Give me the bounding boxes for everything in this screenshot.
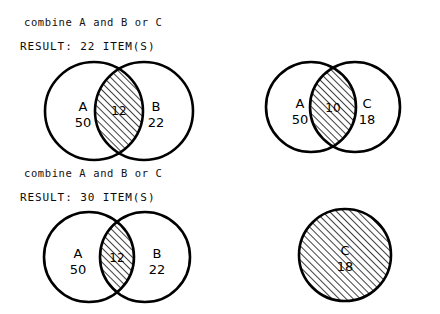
result-text-2: RESULT: 30 ITEM(S) (20, 191, 155, 204)
set-c-count-2: 18 (337, 259, 354, 274)
set-b-count: 22 (148, 115, 165, 130)
venn-diagram-a-and-b-top: A 50 B 22 12 (40, 57, 202, 167)
intersection-count-a-c: 10 (325, 101, 340, 115)
set-b-letter: B (152, 99, 161, 114)
query-text-2: combine A and B or C (24, 167, 162, 179)
intersection-count-a-b: 12 (111, 104, 126, 118)
set-a-letter-3: A (74, 246, 83, 261)
set-c-count: 18 (359, 112, 376, 127)
set-c-letter: C (362, 96, 371, 111)
set-a-letter-2: A (296, 96, 305, 111)
set-a-count-2: 50 (292, 112, 309, 127)
query-text-1: combine A and B or C (24, 16, 162, 28)
intersection-count-a-b-2: 12 (109, 251, 124, 265)
set-a-count: 50 (75, 115, 92, 130)
set-a-letter: A (79, 99, 88, 114)
set-b-count-2: 22 (149, 262, 166, 277)
set-b-letter-2: B (153, 246, 162, 261)
set-a-count-3: 50 (70, 262, 87, 277)
venn-diagram-a-and-b-bottom: A 50 B 22 12 (40, 208, 200, 308)
venn-diagram-page: combine A and B or C RESULT: 22 ITEM(S) … (0, 0, 440, 314)
single-set-circle-c: C 18 (294, 205, 396, 305)
result-text-1: RESULT: 22 ITEM(S) (20, 40, 155, 53)
venn-diagram-a-and-c-top: A 50 C 18 10 (261, 57, 407, 161)
set-c-letter-2: C (340, 243, 349, 258)
